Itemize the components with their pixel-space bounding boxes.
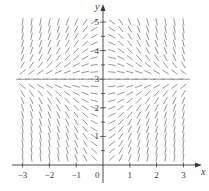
slope-segment — [22, 133, 23, 140]
slope-segment — [57, 119, 59, 125]
y-tick-label: 3 — [95, 74, 100, 84]
slope-segment — [83, 34, 88, 39]
slope-segment — [138, 140, 140, 147]
slope-segment — [137, 26, 140, 32]
slope-segment — [83, 19, 87, 25]
slope-segment — [39, 55, 42, 61]
slope-segment — [182, 55, 185, 61]
slope-segment — [40, 126, 42, 133]
slope-segment — [58, 147, 59, 154]
slope-segment — [57, 48, 60, 54]
slope-segment — [22, 40, 24, 47]
slope-segment — [56, 98, 60, 103]
slope-segment — [164, 112, 166, 118]
slope-segment — [136, 92, 142, 96]
slope-segment — [30, 47, 32, 53]
slope-segment — [145, 63, 150, 68]
slope-segment — [163, 85, 169, 89]
slope-segment — [74, 33, 78, 39]
slope-segment — [137, 126, 140, 132]
slope-segment — [183, 126, 184, 133]
slope-segment — [31, 119, 33, 126]
slope-segment — [66, 26, 69, 32]
slope-segment — [174, 147, 175, 154]
slope-segment — [91, 27, 97, 31]
slope-segment — [174, 19, 175, 26]
slope-segment — [163, 62, 167, 67]
slope-segment — [156, 119, 158, 126]
slope-segment — [183, 140, 184, 147]
y-tick-label: 4 — [95, 46, 100, 56]
slope-segment — [182, 47, 184, 54]
slope-segment — [109, 134, 115, 138]
slope-segment — [57, 26, 59, 32]
slope-segment — [119, 34, 124, 39]
slope-segment — [146, 119, 148, 125]
slope-segment — [109, 93, 116, 94]
slope-segment — [165, 140, 166, 147]
slope-segment — [82, 92, 88, 94]
slope-segment — [127, 48, 132, 53]
slope-segment — [83, 148, 86, 154]
slope-segment — [49, 133, 51, 140]
slope-segment — [137, 48, 141, 54]
slope-segment — [22, 119, 23, 126]
slope-segment — [49, 19, 51, 26]
slope-segment — [40, 140, 41, 147]
slope-segment — [118, 86, 125, 87]
slope-segment — [164, 47, 167, 53]
slope-segment — [156, 126, 158, 133]
slope-segment — [20, 70, 25, 74]
slope-segment — [128, 33, 132, 39]
slope-segment — [31, 133, 32, 140]
slope-segment — [91, 93, 98, 94]
slope-segment — [174, 126, 175, 133]
slope-segment — [182, 91, 186, 97]
slope-segment — [147, 147, 148, 154]
slope-segment — [129, 155, 131, 161]
slope-segment — [156, 26, 158, 33]
slope-segment — [64, 85, 70, 87]
slope-segment — [65, 63, 71, 67]
slope-segment — [182, 62, 186, 68]
slope-segment — [154, 85, 160, 88]
slope-segment — [22, 33, 23, 40]
slope-segment — [128, 41, 132, 46]
y-tick-label: 2 — [95, 103, 100, 113]
x-tick-label: −1 — [71, 170, 81, 180]
slope-segment — [109, 35, 115, 38]
slope-segment — [156, 19, 158, 26]
slope-segment — [147, 133, 149, 140]
slope-segment — [109, 127, 115, 131]
slope-segment — [128, 119, 132, 125]
slope-segment — [181, 84, 186, 88]
slope-segment — [156, 147, 157, 154]
slope-segment — [48, 119, 50, 126]
slope-segment — [82, 56, 88, 59]
slope-segment — [82, 106, 88, 110]
x-tick-label: −3 — [18, 170, 28, 180]
slope-segment — [74, 105, 79, 110]
slope-segment — [64, 71, 70, 73]
slope-segment — [49, 126, 51, 133]
slope-segment — [183, 33, 184, 40]
slope-segment — [55, 71, 61, 74]
slope-segment — [128, 140, 131, 146]
slope-segment — [66, 126, 69, 132]
slope-segment — [145, 91, 150, 96]
slope-segment — [75, 26, 78, 32]
slope-segment — [182, 105, 184, 112]
slope-segment — [40, 147, 41, 154]
slope-segment — [136, 98, 141, 103]
slope-segment — [109, 107, 115, 109]
slope-segment — [83, 27, 87, 32]
slope-segment — [65, 55, 70, 60]
slope-segment — [91, 86, 98, 87]
slope-segment — [47, 91, 52, 96]
slope-segment — [173, 105, 175, 111]
slope-segment — [66, 140, 68, 147]
slope-segment — [82, 71, 89, 72]
slope-segment — [129, 148, 131, 154]
slope-segment — [31, 154, 32, 161]
slope-segment — [56, 91, 61, 96]
